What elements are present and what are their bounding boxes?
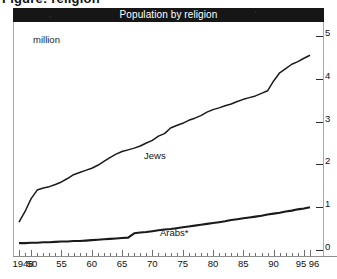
y-tick-label: 5: [325, 28, 330, 38]
x-tick-minor: [237, 253, 238, 256]
x-tick-label: 65: [117, 258, 128, 270]
x-axis-labels: 19485055606570758085909596: [13, 258, 337, 272]
y-axis: 012345: [316, 22, 337, 256]
x-tick-major: [122, 250, 123, 256]
x-tick-minor: [171, 253, 172, 256]
x-tick-minor: [165, 253, 166, 256]
x-tick-label: 85: [238, 258, 249, 270]
x-tick-major: [310, 250, 311, 256]
x-tick-minor: [292, 253, 293, 256]
chart-title: Population by religion: [13, 8, 324, 22]
x-tick-minor: [86, 253, 87, 256]
x-tick-minor: [195, 253, 196, 256]
figure-heading-text: Figure: religion: [2, 0, 100, 6]
population-by-religion-chart: Population by religion million Jews Arab…: [13, 8, 324, 270]
x-tick-minor: [146, 253, 147, 256]
x-tick-minor: [116, 253, 117, 256]
x-tick-minor: [74, 253, 75, 256]
x-tick-minor: [80, 253, 81, 256]
plot-lines: [13, 22, 324, 256]
x-tick-major: [243, 250, 244, 256]
x-tick-minor: [280, 253, 281, 256]
x-tick-minor: [207, 253, 208, 256]
x-tick-label: 50: [27, 258, 38, 270]
y-tick-label: 3: [325, 114, 330, 124]
x-tick-minor: [49, 253, 50, 256]
y-tick-label: 1: [325, 199, 330, 209]
x-tick-minor: [231, 253, 232, 256]
x-tick-label: 96: [309, 258, 320, 270]
x-tick-minor: [189, 253, 190, 256]
x-tick-minor: [201, 253, 202, 256]
x-tick-major: [213, 250, 214, 256]
x-tick-minor: [55, 253, 56, 256]
x-tick-minor: [37, 253, 38, 256]
x-tick-major: [304, 250, 305, 256]
x-tick-minor: [104, 253, 105, 256]
x-tick-minor: [249, 253, 250, 256]
x-tick-minor: [25, 253, 26, 256]
x-tick-minor: [225, 253, 226, 256]
x-tick-label: 75: [177, 258, 188, 270]
series-label-arabs: Arabs*: [160, 227, 189, 238]
x-tick-label: 55: [56, 258, 67, 270]
x-tick-minor: [219, 253, 220, 256]
x-tick-minor: [268, 253, 269, 256]
figure-heading: Figure: religion: [0, 0, 337, 7]
x-tick-label: 80: [208, 258, 219, 270]
x-tick-minor: [286, 253, 287, 256]
y-tick-mark: [316, 79, 323, 80]
y-tick-mark: [316, 164, 323, 165]
series-line-jews: [19, 55, 310, 222]
x-tick-minor: [255, 253, 256, 256]
x-tick-major: [183, 250, 184, 256]
x-tick-minor: [134, 253, 135, 256]
x-tick-major: [274, 250, 275, 256]
y-tick-mark: [316, 207, 323, 208]
y-tick-label: 0: [325, 242, 330, 252]
x-tick-minor: [262, 253, 263, 256]
x-tick-label: 60: [86, 258, 97, 270]
x-tick-label: 95: [296, 258, 307, 270]
y-tick-label: 4: [325, 71, 330, 81]
x-tick-minor: [128, 253, 129, 256]
x-tick-major: [61, 250, 62, 256]
x-tick-minor: [68, 253, 69, 256]
x-tick-major: [31, 250, 32, 256]
x-tick-major: [19, 250, 20, 256]
x-tick-minor: [43, 253, 44, 256]
x-tick-label: 90: [268, 258, 279, 270]
x-tick-minor: [110, 253, 111, 256]
x-tick-label: 70: [147, 258, 158, 270]
x-tick-minor: [177, 253, 178, 256]
x-tick-minor: [158, 253, 159, 256]
y-tick-mark: [316, 36, 323, 37]
x-tick-minor: [298, 253, 299, 256]
x-axis-ticks: [13, 249, 324, 256]
y-tick-label: 2: [325, 156, 330, 166]
y-tick-mark: [316, 122, 323, 123]
x-tick-minor: [140, 253, 141, 256]
x-tick-major: [92, 250, 93, 256]
x-axis-line: [13, 256, 337, 257]
x-tick-minor: [98, 253, 99, 256]
series-label-jews: Jews: [144, 150, 166, 161]
x-tick-major: [152, 250, 153, 256]
